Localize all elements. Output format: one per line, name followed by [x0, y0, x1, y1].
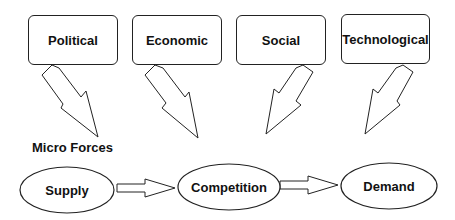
node-demand-label: Demand: [363, 179, 414, 194]
node-economic-label: Economic: [146, 33, 208, 48]
node-social: Social: [236, 15, 326, 65]
arrow-economic: [145, 65, 198, 138]
node-technological: Technological: [341, 14, 430, 64]
arrow-supply-to-competition: [117, 179, 175, 197]
micro-forces-title: Micro Forces: [32, 140, 113, 155]
node-supply-label: Supply: [45, 183, 89, 198]
arrow-political: [42, 65, 98, 137]
node-technological-label: Technological: [342, 32, 428, 47]
diagram-canvas: Supply Competition Demand Political Econ…: [0, 0, 455, 220]
arrow-social: [266, 65, 313, 134]
node-social-label: Social: [262, 33, 300, 48]
arrow-technological: [365, 65, 413, 134]
node-competition-label: Competition: [191, 180, 267, 195]
node-political: Political: [28, 15, 118, 65]
node-political-label: Political: [48, 33, 98, 48]
node-economic: Economic: [132, 15, 222, 65]
arrow-competition-to-demand: [280, 176, 338, 194]
